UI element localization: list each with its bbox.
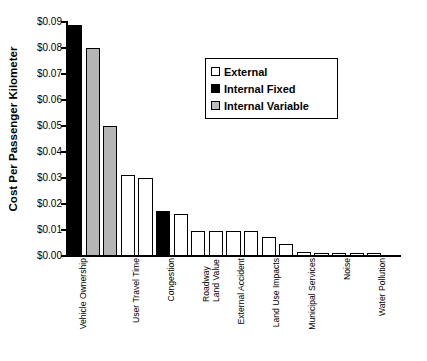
y-axis-tick-mark xyxy=(61,255,67,257)
y-axis-tick-label: $0.05 xyxy=(24,121,62,131)
y-axis-tick-mark xyxy=(61,177,67,179)
y-axis-title: Cost Per Passenger Kilometer xyxy=(2,0,24,258)
bar xyxy=(138,178,152,256)
bar xyxy=(86,48,100,256)
y-axis-tick-mark xyxy=(61,125,67,127)
y-axis-tick-label: $0.09 xyxy=(24,17,62,27)
legend-item: Internal Variable xyxy=(211,97,331,114)
bar xyxy=(314,253,328,256)
y-axis-tick-mark xyxy=(61,99,67,101)
y-axis-tick-mark xyxy=(61,73,67,75)
legend: ExternalInternal FixedInternal Variable xyxy=(205,58,338,119)
x-axis-category-label: Vehicle Ownership xyxy=(35,258,79,358)
y-axis-tick-mark xyxy=(61,203,67,205)
bar xyxy=(244,231,258,256)
x-axis-category-label: Water Pollution xyxy=(334,258,378,358)
legend-item: Internal Fixed xyxy=(211,80,331,97)
legend-swatch-fixed xyxy=(211,84,220,93)
y-axis-tick-label: $0.07 xyxy=(24,69,62,79)
y-axis-title-text: Cost Per Passenger Kilometer xyxy=(7,47,19,212)
bar xyxy=(103,126,117,256)
bar xyxy=(367,253,381,256)
y-axis-tick-label: $0.04 xyxy=(24,147,62,157)
bar xyxy=(174,214,188,256)
legend-swatch-external xyxy=(211,67,220,76)
bar-chart: Cost Per Passenger Kilometer $0.09$0.08$… xyxy=(0,0,427,361)
y-axis-tick-mark xyxy=(61,229,67,231)
bar xyxy=(68,25,82,256)
legend-label: External xyxy=(224,66,267,78)
y-axis-tick-mark xyxy=(61,151,67,153)
y-axis-tick-label: $0.08 xyxy=(24,43,62,53)
bar xyxy=(209,231,223,256)
y-axis-tick-labels: $0.09$0.08$0.07$0.06$0.05$0.04$0.03$0.02… xyxy=(24,0,62,262)
bar xyxy=(121,175,135,256)
bar xyxy=(156,211,170,257)
bar xyxy=(262,237,276,257)
bar xyxy=(297,252,311,256)
y-axis-tick-label: $0.06 xyxy=(24,95,62,105)
bar xyxy=(191,231,205,256)
bar xyxy=(226,231,240,256)
y-axis-tick-mark xyxy=(61,21,67,23)
y-axis-tick-label: $0.03 xyxy=(24,173,62,183)
legend-swatch-variable xyxy=(211,101,220,110)
x-axis-category-label-text: Water Pollution xyxy=(378,258,388,316)
legend-label: Internal Fixed xyxy=(224,83,296,95)
y-axis-tick-label: $0.01 xyxy=(24,225,62,235)
bar xyxy=(350,253,364,256)
x-axis-category-labels: Vehicle OwnershipUser Travel TimeCongest… xyxy=(66,258,406,361)
y-axis-tick-label: $0.02 xyxy=(24,199,62,209)
legend-label: Internal Variable xyxy=(224,100,309,112)
bar xyxy=(332,253,346,256)
bar xyxy=(279,244,293,256)
legend-item: External xyxy=(211,63,331,80)
y-axis-tick-mark xyxy=(61,47,67,49)
